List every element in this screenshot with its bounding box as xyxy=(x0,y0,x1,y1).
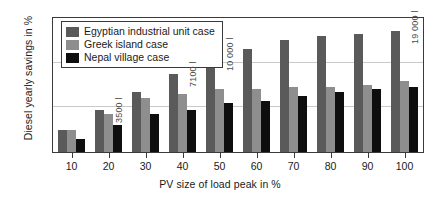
x-tick-mark xyxy=(109,153,110,158)
bar-30-series-2 xyxy=(150,114,159,152)
bar-30-series-0 xyxy=(132,92,141,152)
bar-50-series-0 xyxy=(206,58,215,152)
legend-label-greek: Greek island case xyxy=(84,38,168,51)
x-tick-label-40: 40 xyxy=(163,160,203,172)
bar-100-series-2 xyxy=(409,87,418,152)
bar-10-series-0 xyxy=(58,130,67,152)
x-tick-mark xyxy=(183,153,184,158)
x-tick-mark xyxy=(368,153,369,158)
x-tick-label-30: 30 xyxy=(126,160,166,172)
legend-swatch-icon-greek xyxy=(66,40,79,50)
legend-swatch-icon-nepal xyxy=(66,53,79,63)
bar-60-series-1 xyxy=(252,89,261,152)
bar-80-series-1 xyxy=(326,87,335,152)
bar-group-60 xyxy=(238,18,275,152)
y-axis-title: Diesel yearly savings in % xyxy=(22,3,34,153)
bar-40-series-2 xyxy=(187,110,196,152)
legend-item-greek: Greek island case xyxy=(66,38,215,51)
volume-annotation-100: 19 000 l xyxy=(410,11,420,45)
bar-90-series-1 xyxy=(363,85,372,152)
bar-chart-figure: Diesel yearly savings in % 0102030 10203… xyxy=(0,0,440,203)
bar-30-series-1 xyxy=(141,98,150,152)
x-tick-label-60: 60 xyxy=(237,160,277,172)
bar-50-series-1 xyxy=(215,89,224,152)
bar-group-80 xyxy=(312,18,349,152)
volume-annotation-40: 7100 l xyxy=(188,61,198,87)
bar-60-series-0 xyxy=(243,49,252,152)
bar-80-series-2 xyxy=(335,92,344,152)
bar-20-series-2 xyxy=(113,125,122,152)
bar-10-series-2 xyxy=(76,139,85,152)
x-tick-label-50: 50 xyxy=(200,160,240,172)
bar-80-series-0 xyxy=(317,36,326,152)
volume-annotation-20: 3500 l xyxy=(114,97,124,123)
bar-70-series-0 xyxy=(280,40,289,152)
bar-90-series-2 xyxy=(372,89,381,152)
bar-70-series-2 xyxy=(298,96,307,152)
bar-40-series-0 xyxy=(169,74,178,152)
bar-70-series-1 xyxy=(289,87,298,152)
bar-20-series-1 xyxy=(104,114,113,152)
bar-10-series-1 xyxy=(67,130,76,152)
x-tick-label-90: 90 xyxy=(348,160,388,172)
legend-swatch-icon-egyptian xyxy=(66,27,79,37)
legend-label-egyptian: Egyptian industrial unit case xyxy=(84,25,215,38)
volume-annotation-50: 10 000 l xyxy=(225,38,235,72)
legend-label-nepal: Nepal village case xyxy=(84,51,169,64)
x-tick-mark xyxy=(331,153,332,158)
x-tick-mark xyxy=(72,153,73,158)
x-tick-mark xyxy=(294,153,295,158)
x-tick-mark xyxy=(146,153,147,158)
x-tick-label-20: 20 xyxy=(89,160,129,172)
bar-20-series-0 xyxy=(95,110,104,152)
x-tick-label-10: 10 xyxy=(52,160,92,172)
x-tick-mark xyxy=(405,153,406,158)
bar-60-series-2 xyxy=(261,101,270,152)
bar-group-70 xyxy=(275,18,312,152)
x-tick-label-80: 80 xyxy=(311,160,351,172)
x-tick-mark xyxy=(220,153,221,158)
bar-100-series-1 xyxy=(400,81,409,152)
legend-item-egyptian: Egyptian industrial unit case xyxy=(66,25,215,38)
bar-90-series-0 xyxy=(354,34,363,152)
bar-40-series-1 xyxy=(178,94,187,152)
x-tick-label-100: 100 xyxy=(385,160,425,172)
bar-group-90 xyxy=(349,18,386,152)
x-axis-title: PV size of load peak in % xyxy=(0,178,440,190)
bar-100-series-0 xyxy=(391,31,400,152)
x-tick-mark xyxy=(257,153,258,158)
x-tick-label-70: 70 xyxy=(274,160,314,172)
chart-legend: Egyptian industrial unit case Greek isla… xyxy=(61,21,223,68)
bar-50-series-2 xyxy=(224,103,233,152)
